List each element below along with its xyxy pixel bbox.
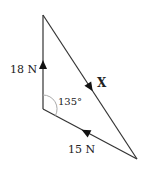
label-18n: 18 N [10, 63, 37, 76]
label-15n: 15 N [68, 143, 95, 156]
arrow-up-left-icon [80, 126, 92, 137]
label-angle: 135° [58, 96, 82, 107]
arrow-down-right-icon [84, 81, 96, 93]
label-x: X [97, 76, 107, 90]
vector-triangle-diagram: 18 N X 135° 15 N [0, 0, 144, 169]
arrow-up-icon [39, 60, 47, 69]
